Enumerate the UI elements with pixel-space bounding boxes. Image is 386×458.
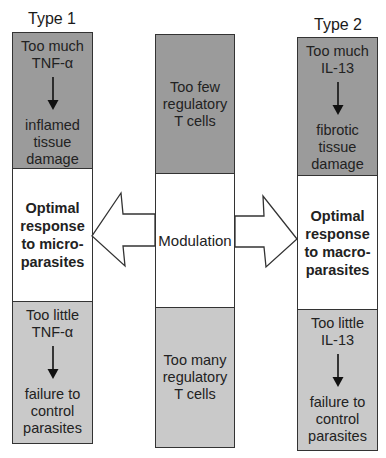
type-2-deficit-result-line-1: failure to (310, 394, 366, 411)
type-1-deficit-result-line-3: parasites (23, 420, 82, 437)
type-2-optimal-line-1: Optimal (311, 207, 365, 225)
type-1-deficit-result-line-1: failure to (25, 386, 81, 403)
type-2-optimal-line-4: parasites (306, 261, 370, 279)
type-2-optimal-line-2: response (305, 225, 369, 243)
down-arrow-icon (331, 82, 345, 116)
type-2-excess-line-2: IL-13 (321, 60, 354, 77)
type-1-optimal-line-1: Optimal (26, 199, 80, 217)
too-many-treg-box: Too many regulatory T cells (156, 307, 234, 447)
too-many-treg-line-1: Too many (164, 352, 227, 369)
type-1-deficit-box: Too little TNF-α failure to control para… (13, 301, 92, 443)
type-2-excess-result-line-2: tissue (319, 139, 357, 156)
too-few-treg-line-1: Too few (170, 79, 220, 96)
type-1-excess-box: Too much TNF-α inflamed tissue damage (13, 33, 92, 168)
type-2-deficit-line-1: Too little (311, 315, 364, 332)
down-arrow-icon (46, 77, 60, 111)
type-2-excess-result-line-3: damage (311, 156, 363, 173)
too-few-treg-line-2: regulatory (163, 96, 227, 113)
too-many-treg-line-3: T cells (174, 386, 216, 403)
type-2-deficit-result-line-2: control (316, 411, 360, 428)
too-few-treg-box: Too few regulatory T cells (156, 35, 234, 173)
type-1-title: Type 1 (12, 10, 92, 28)
type-1-excess-result-line-1: inflamed (25, 117, 80, 134)
type-1-optimal-line-4: parasites (21, 253, 85, 271)
modulation-box: Modulation (156, 173, 234, 307)
type-1-deficit-result-line-2: control (31, 403, 75, 420)
down-arrow-icon (46, 346, 60, 380)
type-2-column: Too much IL-13 fibrotic tissue damage Op… (297, 37, 378, 451)
type-2-excess-line-1: Too much (306, 43, 369, 60)
type-2-excess-result-line-1: fibrotic (316, 122, 359, 139)
too-few-treg-line-3: T cells (174, 113, 216, 130)
type-1-deficit-line-1: Too little (26, 307, 79, 324)
type-2-optimal-box: Optimal response to macro- parasites (298, 175, 377, 309)
type-2-deficit-line-2: IL-13 (321, 332, 354, 349)
left-block-arrow-icon (92, 193, 155, 266)
type-2-title: Type 2 (298, 16, 378, 34)
type-2-deficit-box: Too little IL-13 failure to control para… (298, 309, 377, 450)
too-many-treg-line-2: regulatory (163, 369, 227, 386)
regulatory-column: Too few regulatory T cells Modulation To… (155, 34, 235, 448)
type-1-optimal-line-2: response (20, 217, 84, 235)
down-arrow-icon (331, 354, 345, 388)
type-2-excess-box: Too much IL-13 fibrotic tissue damage (298, 38, 377, 175)
type-1-optimal-line-3: to micro- (21, 235, 83, 253)
right-block-arrow-icon (235, 196, 297, 267)
type-1-excess-line-2: TNF-α (32, 55, 73, 72)
type-1-deficit-line-2: TNF-α (32, 324, 73, 341)
type-1-excess-line-1: Too much (21, 38, 84, 55)
type-2-deficit-result-line-3: parasites (308, 428, 367, 445)
type-1-excess-result-line-2: tissue (34, 134, 72, 151)
type-1-column: Too much TNF-α inflamed tissue damage Op… (12, 32, 93, 444)
type-1-optimal-box: Optimal response to micro- parasites (13, 168, 92, 301)
type-1-excess-result-line-3: damage (26, 151, 78, 168)
type-2-optimal-line-3: to macro- (304, 243, 370, 261)
modulation-label: Modulation (158, 232, 231, 249)
